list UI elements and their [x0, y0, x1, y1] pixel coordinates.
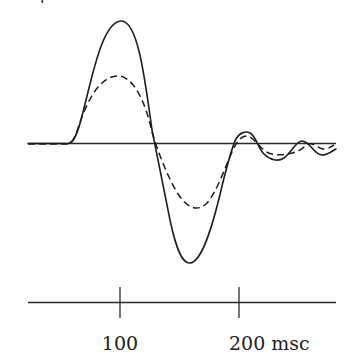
waveform-dashed — [28, 76, 334, 208]
tick-label-200: 200 msc — [229, 332, 310, 354]
tick-label-100: 100 — [102, 332, 138, 354]
cut-off-text-fragment — [42, 0, 44, 3]
waveform-solid — [28, 21, 336, 263]
time-axis: 100 200 msc — [28, 287, 336, 354]
erp-waveform-figure: 100 200 msc — [0, 0, 347, 360]
